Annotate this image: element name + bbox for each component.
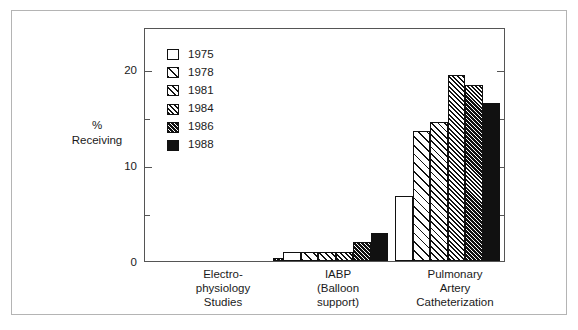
x-cat-0-line-2: Studies bbox=[168, 295, 278, 309]
bar-1984-group-3 bbox=[448, 75, 466, 261]
x-cat-2-line-0: Pulmonary bbox=[390, 267, 520, 281]
bar-1988-group-2 bbox=[371, 233, 389, 261]
bar-1975-group-2 bbox=[283, 252, 301, 261]
bar-1981-group-2 bbox=[318, 252, 336, 261]
bar-1986-group-2 bbox=[353, 242, 371, 261]
plot-area: 1975 1978 1981 1984 1986 1988 bbox=[144, 28, 505, 262]
y-tick-label-10: 10 bbox=[113, 161, 137, 173]
bar-1984-group-2 bbox=[336, 252, 354, 261]
x-cat-0-line-0: Electro- bbox=[168, 267, 278, 281]
y-axis-title: % Receiving bbox=[56, 118, 138, 148]
bar-1986-group-3 bbox=[465, 85, 483, 261]
x-category-label-electrophysiology-studies: Electro- physiology Studies bbox=[168, 267, 278, 309]
x-cat-0-line-1: physiology bbox=[168, 281, 278, 295]
x-cat-1-line-0: IABP bbox=[283, 267, 393, 281]
x-cat-1-line-2: support) bbox=[283, 295, 393, 309]
y-axis-title-line-1: % bbox=[56, 118, 138, 133]
bar-1975-group-3 bbox=[395, 196, 413, 261]
chart-root: % Receiving 0 10 20 1975 1978 bbox=[0, 0, 578, 330]
x-cat-2-line-2: Catheterization bbox=[390, 295, 520, 309]
bars-layer bbox=[145, 29, 504, 261]
x-cat-2-line-1: Artery bbox=[390, 281, 520, 295]
x-category-label-pulmonary-artery-catheterization: Pulmonary Artery Catheterization bbox=[390, 267, 520, 309]
x-category-label-iabp: IABP (Balloon support) bbox=[283, 267, 393, 309]
y-tick-label-0: 0 bbox=[113, 257, 137, 269]
bar-1978-group-2 bbox=[301, 252, 319, 261]
bar-1988-group-3 bbox=[483, 103, 501, 261]
bar-1981-group-3 bbox=[430, 122, 448, 261]
bar-1978-group-3 bbox=[413, 131, 431, 261]
y-tick-label-20: 20 bbox=[113, 65, 137, 77]
y-axis-title-line-2: Receiving bbox=[56, 133, 138, 148]
x-cat-1-line-1: (Balloon bbox=[283, 281, 393, 295]
